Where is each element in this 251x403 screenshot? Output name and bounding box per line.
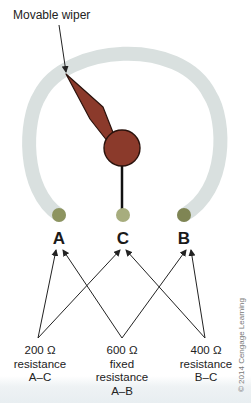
caption-resistance-bc: 400 Ω resistance B–C bbox=[166, 344, 246, 385]
caption-value: 400 Ω bbox=[166, 344, 246, 358]
terminal-a-label: A bbox=[49, 229, 69, 249]
potentiometer-diagram: Movable wiper A C B 200 Ω resistance A–C… bbox=[0, 0, 251, 403]
diagram-graphics bbox=[0, 0, 251, 403]
arrow-ac-to-c bbox=[38, 250, 120, 338]
wiper-hub bbox=[104, 130, 140, 166]
caption-text: resistance bbox=[166, 358, 246, 372]
terminal-a-icon bbox=[52, 208, 66, 222]
caption-terminals: B–C bbox=[166, 371, 246, 385]
caption-resistance-ac: 200 Ω resistance A–C bbox=[0, 344, 80, 385]
terminal-c-icon bbox=[116, 208, 130, 222]
caption-resistance-ab: 600 Ω fixed resistance A–B bbox=[82, 344, 162, 398]
copyright-notice: © 2014 Cengage Learning bbox=[237, 298, 246, 392]
caption-text: fixed bbox=[82, 358, 162, 372]
caption-text: resistance bbox=[0, 358, 80, 372]
wiper-pointer bbox=[66, 74, 120, 142]
arrow-ab-to-a bbox=[63, 250, 122, 338]
terminal-c-label: C bbox=[113, 229, 133, 249]
caption-value: 600 Ω bbox=[82, 344, 162, 358]
caption-terminals: A–B bbox=[82, 385, 162, 399]
caption-text: resistance bbox=[82, 371, 162, 385]
arrow-ac-to-a bbox=[38, 250, 56, 338]
caption-terminals: A–C bbox=[0, 371, 80, 385]
terminal-b-icon bbox=[177, 208, 191, 222]
movable-wiper-label: Movable wiper bbox=[13, 8, 90, 22]
caption-value: 200 Ω bbox=[0, 344, 80, 358]
arrow-ab-to-b bbox=[122, 250, 186, 338]
terminal-b-label: B bbox=[174, 229, 194, 249]
